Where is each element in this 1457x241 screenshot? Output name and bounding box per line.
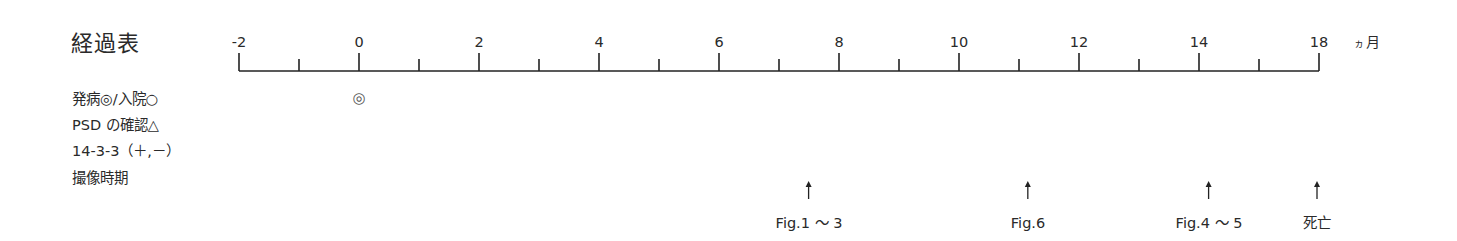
event-fig-4-5: Fig.4 〜 5 xyxy=(1176,180,1243,232)
up-arrow-icon xyxy=(1023,180,1033,200)
tick-label: 8 xyxy=(834,33,843,51)
tick-label: 2 xyxy=(474,33,483,51)
event-label: Fig.4 〜 5 xyxy=(1176,214,1243,232)
tick-label: 12 xyxy=(1070,33,1088,51)
unit-label-main: 月 xyxy=(1366,34,1380,50)
tick-label: 4 xyxy=(594,33,603,51)
unit-label: ヵ月 xyxy=(1354,33,1380,53)
tick-label: 0 xyxy=(354,33,363,51)
event-death: 死亡 xyxy=(1303,180,1331,232)
event-label: Fig.1 〜 3 xyxy=(776,214,843,232)
event-fig-6: Fig.6 xyxy=(1011,180,1045,232)
tick-label: 10 xyxy=(950,33,968,51)
tick-label: 6 xyxy=(714,33,723,51)
tick-label: -2 xyxy=(232,33,246,51)
up-arrow-icon xyxy=(1312,180,1322,200)
up-arrow-icon xyxy=(804,180,814,200)
tick-label: 14 xyxy=(1190,33,1208,51)
up-arrow-icon xyxy=(1204,180,1214,200)
event-label: Fig.6 xyxy=(1011,214,1045,232)
onset-marker-icon: ◎ xyxy=(352,89,365,107)
tick-label: 18 xyxy=(1310,33,1328,51)
unit-label-small: ヵ xyxy=(1354,38,1364,49)
event-fig-1-3: Fig.1 〜 3 xyxy=(776,180,843,232)
event-label: 死亡 xyxy=(1303,214,1331,232)
